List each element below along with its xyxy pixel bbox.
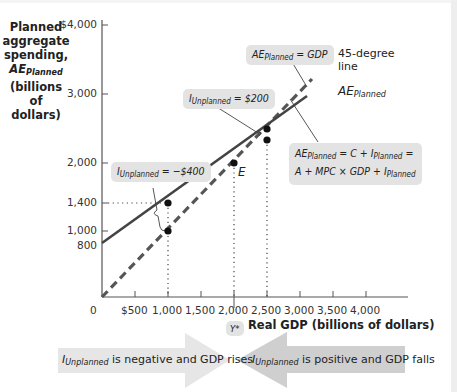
point-e: [230, 159, 237, 166]
y-tick: $4,000: [47, 18, 97, 30]
x-tick: 3,500: [317, 304, 347, 316]
point-1000-1400: [164, 199, 171, 206]
x-tick: 4,000: [350, 304, 380, 316]
y-axis-label: Planned aggregate spending, AEPlanned (b…: [2, 20, 70, 122]
label-iu-400: IUnplanned = −$400: [111, 162, 211, 182]
point-2500-2300: [263, 136, 270, 143]
x-tick: 2,000: [218, 304, 248, 316]
label-ystar: Y*: [226, 321, 244, 336]
y-tick: 3,000: [47, 87, 97, 99]
y-tick: 2,000: [47, 156, 97, 168]
x-tick: 1,500: [185, 304, 215, 316]
x-tick: $500: [121, 304, 148, 316]
x-axis-label: Real GDP (billions of dollars): [248, 318, 434, 332]
label-formula: AEPlanned = C + IPlanned = A + MPC × GDP…: [289, 143, 422, 185]
x-tick: 2,500: [251, 304, 281, 316]
arrow-left-text: IUnplanned is negative and GDP rises: [62, 353, 253, 367]
line-45-degree: [102, 79, 312, 297]
x-tick: 0: [90, 304, 97, 316]
y-tick: 800: [47, 239, 97, 251]
label-45-degree: 45-degreeline: [338, 47, 395, 73]
point-2500-2500: [263, 125, 270, 132]
y-tick: 1,400: [47, 196, 97, 208]
x-tick: 3,000: [284, 304, 314, 316]
y-tick: 1,000: [47, 224, 97, 236]
label-point-e: E: [238, 165, 246, 179]
point-1000-1000: [164, 227, 171, 234]
label-ae-planned-line: AEPlanned: [338, 84, 386, 99]
arrow-right-text: IUnplanned is positive and GDP falls: [252, 353, 435, 367]
label-ae-eq-gdp: AEPlanned = GDP: [246, 45, 334, 65]
x-tick: 1,000: [152, 304, 182, 316]
label-iu-200: IUnplanned = $200: [183, 89, 275, 109]
